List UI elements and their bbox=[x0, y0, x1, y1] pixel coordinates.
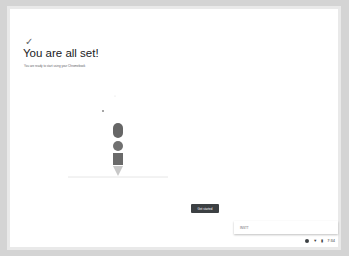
page-title: You are all set! bbox=[23, 47, 99, 59]
status-tray[interactable]: ▼ ▮ 7:34 bbox=[305, 238, 335, 243]
notification-toast[interactable]: INSTT bbox=[234, 221, 338, 234]
clock: 7:34 bbox=[327, 238, 335, 243]
battery-icon: ▮ bbox=[321, 238, 323, 243]
pen-illustration bbox=[60, 90, 180, 190]
get-started-button[interactable]: Get started bbox=[191, 204, 219, 213]
page-subtitle: You are ready to start using your Chrome… bbox=[24, 64, 85, 68]
check-icon: ✓ bbox=[25, 36, 33, 47]
wifi-icon: ▼ bbox=[313, 238, 317, 243]
account-icon bbox=[305, 239, 309, 243]
